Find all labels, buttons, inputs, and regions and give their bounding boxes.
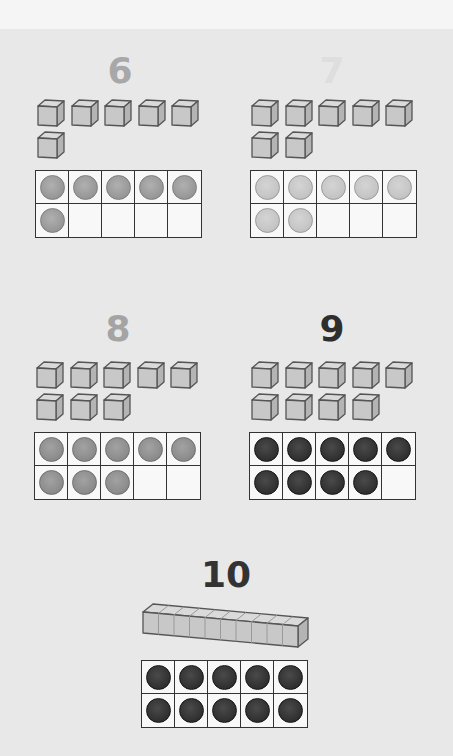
ten-frame-cell — [167, 466, 200, 499]
unit-cube-icon — [69, 360, 99, 390]
ten-frame — [141, 660, 308, 728]
counter-icon — [106, 175, 131, 200]
unit-cube-icon — [250, 360, 280, 390]
ten-frame-cell — [142, 661, 175, 694]
ten-frame-cell — [284, 171, 317, 204]
counter-icon — [138, 437, 163, 462]
unit-cube-icon — [250, 392, 280, 422]
counter-icon — [179, 665, 204, 690]
unit-cube-icon — [36, 130, 66, 160]
ten-frame-cell — [250, 466, 283, 499]
ten-frame-cell — [317, 204, 350, 237]
unit-cube-icon — [136, 360, 166, 390]
counter-icon — [288, 208, 313, 233]
unit-cube-icon — [35, 392, 65, 422]
numeral-label: 10 — [196, 557, 256, 593]
ten-frame-cell — [284, 204, 317, 237]
unit-cube-icon — [137, 98, 167, 128]
ten-frame-cell — [134, 433, 167, 466]
counter-icon — [105, 470, 130, 495]
numeral-label: 6 — [90, 53, 150, 89]
counter-icon — [39, 437, 64, 462]
counter-icon — [146, 665, 171, 690]
counter-icon — [278, 665, 303, 690]
ten-rod-icon — [141, 600, 311, 650]
counter-icon — [254, 437, 279, 462]
counter-icon — [320, 437, 345, 462]
counter-icon — [179, 698, 204, 723]
ten-frame-cell — [35, 433, 68, 466]
unit-cube-icon — [70, 98, 100, 128]
unit-cube-icon — [102, 392, 132, 422]
ten-frame-cell — [383, 171, 416, 204]
unit-cube-icon — [250, 98, 280, 128]
ten-frame-cell — [274, 661, 307, 694]
counter-icon — [171, 437, 196, 462]
counter-icon — [321, 175, 346, 200]
unit-cube-icon — [36, 98, 66, 128]
unit-cube-icon — [169, 360, 199, 390]
counter-icon — [320, 470, 345, 495]
counter-icon — [146, 698, 171, 723]
counter-icon — [278, 698, 303, 723]
ten-frame-cell — [135, 204, 168, 237]
unit-cube-icon — [317, 360, 347, 390]
numeral-label: 9 — [302, 311, 362, 347]
ten-frame-cell — [382, 466, 415, 499]
ten-frame-cell — [69, 171, 102, 204]
counter-icon — [353, 437, 378, 462]
counter-icon — [105, 437, 130, 462]
ten-frame-cell — [208, 661, 241, 694]
counter-icon — [255, 208, 280, 233]
ten-frame-cell — [175, 661, 208, 694]
counter-icon — [212, 665, 237, 690]
ten-frame-cell — [102, 204, 135, 237]
unit-cube-icon — [250, 130, 280, 160]
ten-frame-cell — [134, 466, 167, 499]
ten-frame-cell — [101, 466, 134, 499]
counter-icon — [40, 208, 65, 233]
unit-cube-icon — [284, 130, 314, 160]
ten-frame — [250, 170, 417, 238]
ten-frame-cell — [283, 433, 316, 466]
counter-icon — [40, 175, 65, 200]
ten-frame-cell — [101, 433, 134, 466]
numeral-label: 7 — [302, 53, 362, 89]
ten-frame-cell — [241, 694, 274, 727]
counter-icon — [139, 175, 164, 200]
ten-frame-cell — [350, 204, 383, 237]
ten-frame-cell — [175, 694, 208, 727]
unit-cube-icon — [384, 98, 414, 128]
ten-frame — [34, 432, 201, 500]
ten-frame-cell — [349, 466, 382, 499]
ten-frame-cell — [317, 171, 350, 204]
counter-icon — [39, 470, 64, 495]
counter-icon — [353, 470, 378, 495]
ten-frame-cell — [383, 204, 416, 237]
ten-frame — [35, 170, 202, 238]
counter-icon — [245, 665, 270, 690]
ten-frame-cell — [382, 433, 415, 466]
unit-cube-icon — [317, 98, 347, 128]
unit-cube-icon — [170, 98, 200, 128]
ten-frame-cell — [168, 171, 201, 204]
ten-frame-cell — [316, 466, 349, 499]
numeral-label: 8 — [88, 311, 148, 347]
ten-frame-cell — [36, 171, 69, 204]
unit-cube-icon — [284, 392, 314, 422]
counter-icon — [287, 437, 312, 462]
counter-icon — [354, 175, 379, 200]
ten-frame-cell — [208, 694, 241, 727]
unit-cube-icon — [384, 360, 414, 390]
ten-frame-cell — [251, 171, 284, 204]
unit-cube-icon — [351, 392, 381, 422]
unit-cube-icon — [35, 360, 65, 390]
ten-frame-cell — [350, 171, 383, 204]
ten-frame-cell — [241, 661, 274, 694]
counter-icon — [72, 470, 97, 495]
counter-icon — [287, 470, 312, 495]
ten-frame-cell — [69, 204, 102, 237]
ten-frame-cell — [102, 171, 135, 204]
ten-frame-cell — [274, 694, 307, 727]
ten-frame-cell — [316, 433, 349, 466]
